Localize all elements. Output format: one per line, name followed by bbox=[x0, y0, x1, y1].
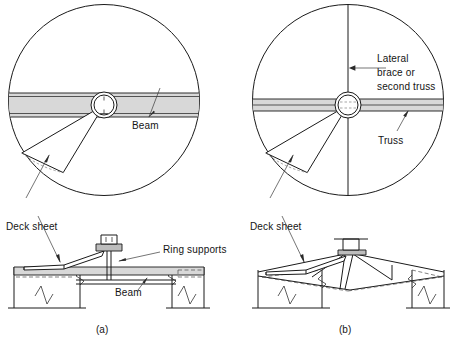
deck-hidden-chord-left-b bbox=[262, 277, 348, 291]
ring-support-plate-a bbox=[96, 244, 122, 251]
lateral-brace-label-line2: brace or bbox=[377, 67, 415, 78]
truss-plan-label-b: Truss bbox=[378, 135, 403, 146]
deck-sheet-wedge-b bbox=[266, 105, 348, 173]
break-symbol-left-b bbox=[278, 286, 296, 304]
break-symbol-right-b bbox=[418, 286, 436, 304]
panel-a-plan-view bbox=[6, 5, 202, 199]
truss-web-diagonal-c-b bbox=[345, 254, 353, 289]
beam-section-label-a: Beam bbox=[115, 287, 142, 298]
truss-top-chord-right-b bbox=[350, 253, 444, 272]
panel-a-caption: (a) bbox=[96, 324, 108, 335]
deck-sheet-section-leader-arrow-a bbox=[56, 254, 61, 263]
panel-b-plan-view bbox=[250, 4, 446, 198]
break-symbol-left-a bbox=[35, 286, 53, 304]
lateral-brace-label-line3: second truss bbox=[377, 81, 436, 92]
deck-hidden-chord-right-b bbox=[348, 277, 442, 291]
lateral-brace-label-line1: Lateral bbox=[377, 53, 409, 64]
deck-sheet-label-b: Deck sheet bbox=[250, 221, 302, 232]
center-hub-inner-ring-b bbox=[338, 95, 358, 115]
ring-supports-label-a: Ring supports bbox=[163, 244, 227, 255]
deck-sheet-label-a: Deck sheet bbox=[6, 221, 58, 232]
truss-bottom-chord-left-b bbox=[258, 276, 350, 290]
panel-b-caption: (b) bbox=[339, 324, 351, 335]
ring-support-column-a bbox=[101, 235, 117, 244]
engineering-drawing: Beam Deck sheet Ring supports Beam (a) L… bbox=[0, 0, 455, 342]
truss-bottom-chord-right-b bbox=[350, 276, 444, 290]
lateral-brace-leader-arrow-b bbox=[349, 65, 356, 71]
break-symbol-right-a bbox=[178, 286, 196, 304]
deck-sheet-section-leader-arrow-b bbox=[300, 254, 305, 263]
ring-support-plate-b bbox=[338, 250, 366, 255]
figure-canvas: Beam Deck sheet Ring supports Beam (a) L… bbox=[0, 0, 455, 342]
beam-plan-label-a: Beam bbox=[132, 120, 159, 131]
ring-supports-leader-arrow-a bbox=[118, 258, 126, 261]
ring-support-column-b bbox=[343, 239, 359, 250]
